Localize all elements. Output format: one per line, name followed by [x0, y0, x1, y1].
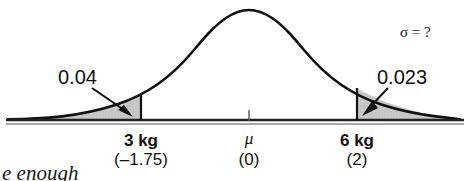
axis-label-right-zscore: (2) [347, 150, 368, 169]
axis-label-center-value: μ [244, 129, 254, 148]
left-area-probability-label: 0.04 [58, 66, 97, 88]
axis-label-left-value: 3 kg [124, 131, 158, 150]
axis-label-center-zscore: (0) [239, 150, 260, 169]
normal-distribution-figure: 0.04 0.023 σ = ? 3 kg (–1.75) μ (0) 6 kg… [0, 0, 468, 181]
distribution-chart-svg: 0.04 0.023 σ = ? 3 kg (–1.75) μ (0) 6 kg… [0, 0, 468, 181]
sigma-unknown-label: σ = ? [400, 24, 431, 40]
chart-background [0, 0, 468, 181]
clipped-caption-text: e enough [2, 161, 78, 181]
right-area-probability-label: 0.023 [377, 66, 427, 88]
axis-label-left-zscore: (–1.75) [114, 150, 168, 169]
axis-label-right-value: 6 kg [340, 131, 374, 150]
